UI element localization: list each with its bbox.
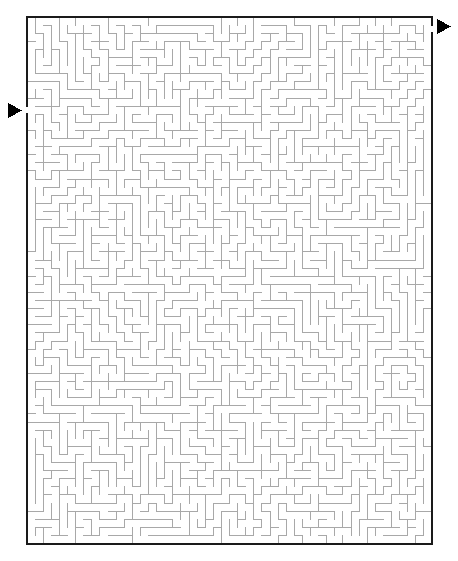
maze-canvas	[0, 0, 458, 561]
maze-page: Maze Puzzle	[0, 0, 458, 561]
